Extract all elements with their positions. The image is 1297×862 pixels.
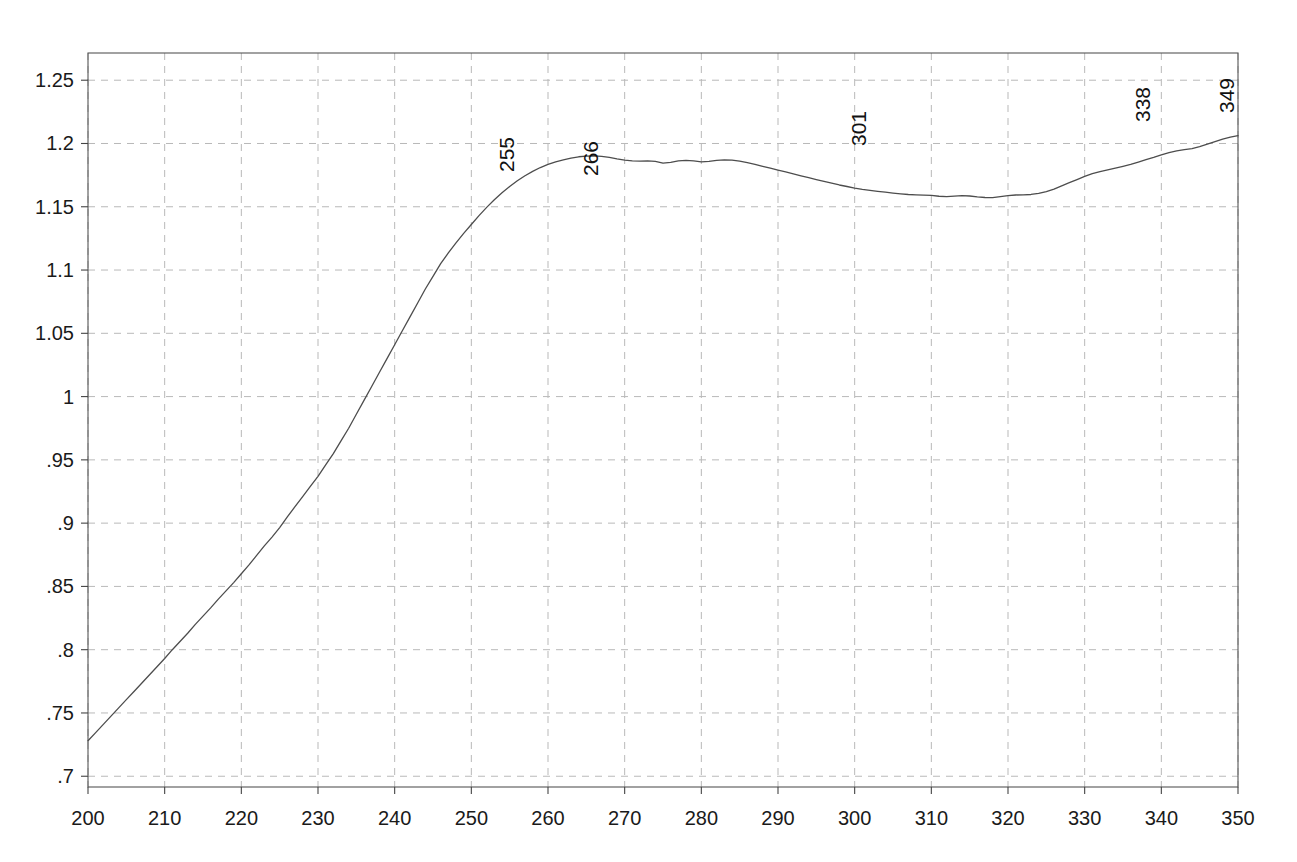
chart-container: .7.75.8.85.9.9511.051.11.151.21.25 20021… <box>0 0 1297 862</box>
y-axis-tick-label: 1 <box>63 385 74 408</box>
peak-label-266: 266 <box>579 141 603 176</box>
y-axis-tick-label: .8 <box>57 638 74 661</box>
x-axis-tick-label: 320 <box>991 807 1024 830</box>
x-axis-tick-label: 330 <box>1068 807 1101 830</box>
x-axis-tick-label: 210 <box>148 807 181 830</box>
x-axis-tick-label: 350 <box>1221 807 1254 830</box>
peak-label-255: 255 <box>495 137 519 172</box>
y-axis-tick-label: 1.15 <box>35 195 74 218</box>
y-axis-tick-label: 1.1 <box>46 259 74 282</box>
tick-marks <box>81 80 1238 794</box>
x-axis-tick-label: 260 <box>531 807 564 830</box>
y-axis-tick-label: 1.2 <box>46 132 74 155</box>
x-axis-tick-label: 230 <box>301 807 334 830</box>
peak-label-338: 338 <box>1131 86 1155 121</box>
y-axis-tick-label: .75 <box>46 701 74 724</box>
y-axis-tick-label: .85 <box>46 575 74 598</box>
x-axis-tick-label: 290 <box>761 807 794 830</box>
peak-label-349: 349 <box>1215 78 1239 113</box>
x-axis-tick-label: 250 <box>455 807 488 830</box>
x-axis-tick-label: 280 <box>685 807 718 830</box>
y-axis-tick-label: .7 <box>57 765 74 788</box>
x-axis-tick-label: 200 <box>71 807 104 830</box>
y-axis-tick-label: 1.25 <box>35 69 74 92</box>
x-axis-tick-label: 340 <box>1145 807 1178 830</box>
y-axis-tick-label: 1.05 <box>35 322 74 345</box>
x-axis-tick-label: 310 <box>915 807 948 830</box>
plot-area <box>0 0 1297 862</box>
y-axis-tick-label: .95 <box>46 448 74 471</box>
x-axis-tick-label: 220 <box>225 807 258 830</box>
x-axis-tick-label: 270 <box>608 807 641 830</box>
x-axis-tick-label: 240 <box>378 807 411 830</box>
peak-label-301: 301 <box>847 111 871 146</box>
x-axis-tick-label: 300 <box>838 807 871 830</box>
y-axis-tick-label: .9 <box>57 512 74 535</box>
